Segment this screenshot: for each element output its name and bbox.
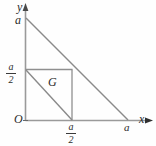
y-tick-label-a: a (15, 14, 21, 26)
figure-canvas (0, 0, 156, 146)
y-axis-arrowhead (23, 3, 29, 11)
x-tick-fraction-denominator: 2 (68, 135, 75, 145)
origin-label: O (14, 113, 23, 125)
x-axis-arrowhead (145, 118, 153, 124)
geometry-figure: y x O a a G a 2 a 2 (0, 0, 156, 146)
y-tick-fraction-numerator: a (8, 62, 15, 72)
y-tick-fraction-denominator: 2 (8, 75, 15, 85)
x-tick-label-a: a (124, 122, 130, 133)
y-axis-label: y (17, 1, 22, 13)
y-tick-label-a-over-2: a 2 (6, 62, 16, 85)
x-axis-label: x (139, 113, 144, 125)
x-tick-label-a-over-2: a 2 (66, 122, 76, 145)
region-label-g: G (48, 76, 57, 88)
x-tick-fraction-numerator: a (68, 122, 75, 132)
